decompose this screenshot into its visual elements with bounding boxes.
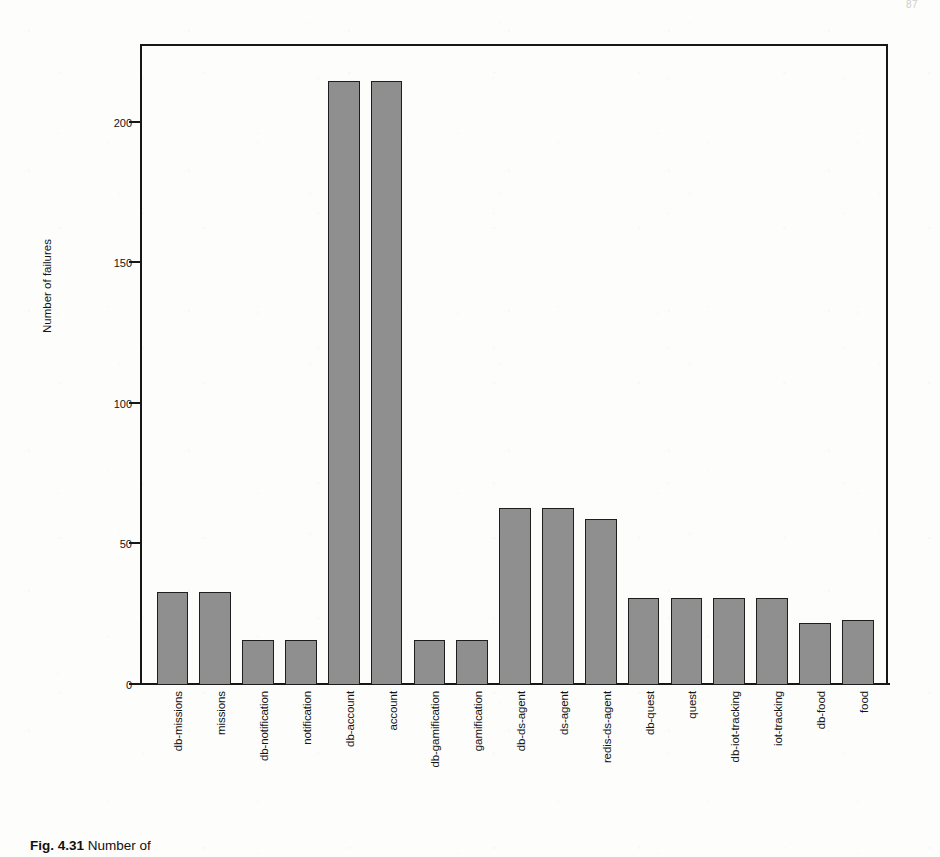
- bar-slot: [408, 44, 451, 685]
- bar: [842, 620, 874, 685]
- bar: [542, 508, 574, 685]
- x-label-slot: db-missions: [151, 691, 194, 831]
- bar-slot: [494, 44, 537, 685]
- y-axis-tick-labels: 050100150200: [88, 44, 132, 685]
- caption-figure-number: Fig. 4.31: [30, 838, 84, 853]
- bar-slot: [579, 44, 622, 685]
- x-label-slot: food: [836, 691, 879, 831]
- bar: [456, 640, 488, 685]
- x-tick-label: db-quest: [644, 691, 656, 735]
- x-tick-label: ds-agent: [558, 691, 570, 735]
- figure-caption: Fig. 4.31 Number of: [30, 838, 151, 857]
- x-label-slot: redis-ds-agent: [579, 691, 622, 831]
- y-tick-mark: [129, 402, 140, 404]
- bar-slot: [237, 44, 280, 685]
- x-tick-label: db-ds-agent: [515, 691, 527, 751]
- bar: [628, 598, 660, 685]
- bar: [242, 640, 274, 685]
- bar-slot: [708, 44, 751, 685]
- x-tick-label: account: [387, 691, 399, 731]
- x-tick-label: db-food: [815, 691, 827, 729]
- bar: [756, 598, 788, 685]
- bar-slot: [622, 44, 665, 685]
- bar: [328, 81, 360, 685]
- bar-slot: [151, 44, 194, 685]
- plot-area: [140, 44, 888, 685]
- bar-slot: [451, 44, 494, 685]
- x-label-slot: db-food: [793, 691, 836, 831]
- x-label-slot: db-quest: [622, 691, 665, 831]
- bar: [414, 640, 446, 685]
- bar-series: [140, 44, 888, 685]
- x-label-slot: db-ds-agent: [494, 691, 537, 831]
- bar: [499, 508, 531, 685]
- x-label-slot: gamification: [451, 691, 494, 831]
- bar: [799, 623, 831, 685]
- bar-slot: [665, 44, 708, 685]
- x-label-slot: account: [365, 691, 408, 831]
- bar-slot: [194, 44, 237, 685]
- bar-slot: [322, 44, 365, 685]
- x-label-slot: db-iot-tracking: [708, 691, 751, 831]
- y-tick-label: 0: [126, 679, 132, 691]
- x-label-slot: db-gamification: [408, 691, 451, 831]
- y-axis-label: Number of failures: [41, 201, 53, 371]
- x-axis-tick-labels: db-missionsmissionsdb-notificationnotifi…: [140, 691, 888, 831]
- y-tick-mark: [129, 261, 140, 263]
- x-label-slot: quest: [665, 691, 708, 831]
- bar-slot: [751, 44, 794, 685]
- bar: [371, 81, 403, 685]
- y-tick-mark: [129, 542, 140, 544]
- x-tick-label: db-account: [344, 691, 356, 747]
- x-label-slot: ds-agent: [536, 691, 579, 831]
- x-tick-label: db-iot-tracking: [729, 691, 741, 762]
- x-tick-label: redis-ds-agent: [601, 691, 613, 763]
- bar: [157, 592, 189, 685]
- x-tick-label: db-notification: [258, 691, 270, 761]
- bar: [585, 519, 617, 685]
- bar: [671, 598, 703, 685]
- x-tick-label: notification: [301, 691, 313, 745]
- x-tick-label: db-gamification: [429, 691, 441, 768]
- bar: [199, 592, 231, 685]
- bar-slot: [279, 44, 322, 685]
- x-label-slot: iot-tracking: [751, 691, 794, 831]
- x-tick-label: food: [858, 691, 870, 713]
- bar-slot: [536, 44, 579, 685]
- bar-slot: [836, 44, 879, 685]
- y-tick-mark: [129, 683, 140, 685]
- x-label-slot: db-notification: [237, 691, 280, 831]
- x-tick-label: quest: [686, 691, 698, 719]
- y-tick-mark: [129, 121, 140, 123]
- x-tick-label: missions: [215, 691, 227, 735]
- x-label-slot: db-account: [322, 691, 365, 831]
- bar: [285, 640, 317, 685]
- figure-bar-chart: Number of failures 050100150200 db-missi…: [0, 0, 940, 857]
- bar-slot: [793, 44, 836, 685]
- bar-slot: [365, 44, 408, 685]
- x-tick-label: db-missions: [172, 691, 184, 751]
- x-label-slot: missions: [194, 691, 237, 831]
- x-tick-label: gamification: [472, 691, 484, 751]
- x-tick-label: iot-tracking: [772, 691, 784, 746]
- caption-body: Number of: [88, 838, 151, 853]
- bar: [713, 598, 745, 685]
- x-label-slot: notification: [279, 691, 322, 831]
